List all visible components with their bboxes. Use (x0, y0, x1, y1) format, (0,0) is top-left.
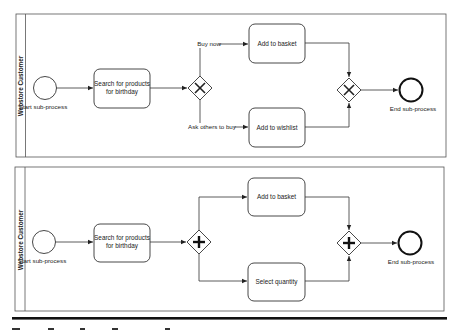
sequence-flow (305, 197, 349, 230)
pool-parallel: Webstore Customer Start sub-process Sear… (15, 167, 444, 311)
sequence-flow (305, 256, 349, 281)
start-event-label: Start sub-process (18, 257, 67, 264)
start-event-circle[interactable] (34, 77, 57, 100)
task-search-line1: Search for products (94, 80, 150, 88)
sequence-flow (199, 197, 247, 230)
task-add-to-basket-label: Add to basket (257, 40, 296, 47)
end-event-circle[interactable] (400, 79, 423, 102)
pool-exclusive: Webstore Customer Start sub-process Sear… (16, 14, 446, 157)
bpmn-figure: Webstore Customer Start sub-process Sear… (0, 0, 459, 330)
sequence-flow (305, 103, 349, 127)
task-add-to-wishlist-label: Add to wishlist (257, 124, 298, 131)
task-search-line2: for birthday (106, 242, 139, 250)
sequence-flow-buy-now (200, 44, 248, 76)
end-event-label: End sub-process (388, 258, 434, 265)
sequence-flow (305, 43, 349, 77)
end-event-label: End sub-process (390, 105, 436, 112)
pool-border (16, 14, 446, 157)
exclusive-merge-gateway[interactable] (337, 78, 361, 102)
task-select-quantity-label: Select quantity (256, 278, 299, 286)
branch-label-ask-others: Ask others to buy (188, 123, 237, 130)
parallel-split-gateway[interactable] (187, 230, 211, 254)
end-event-circle[interactable] (399, 232, 422, 255)
pool-border (15, 167, 444, 311)
exclusive-split-gateway[interactable] (188, 76, 212, 100)
start-event-label: Start sub-process (19, 103, 68, 110)
task-search-line1: Search for products (94, 234, 150, 242)
task-search-line2: for birthday (106, 88, 139, 96)
parallel-merge-gateway[interactable] (337, 231, 361, 255)
start-event-circle[interactable] (33, 231, 56, 254)
sequence-flow (199, 254, 247, 281)
figure-rule (12, 317, 447, 320)
branch-label-buy-now: Buy now (197, 40, 221, 47)
task-add-to-basket-label: Add to basket (257, 193, 296, 200)
